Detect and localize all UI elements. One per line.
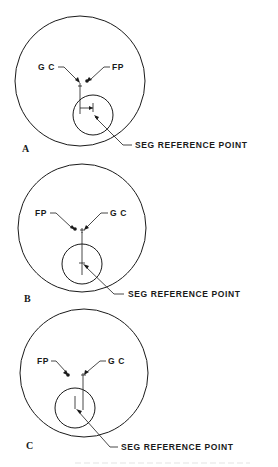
fp-label-b: FP (35, 208, 47, 218)
offset-arrow-a (89, 106, 93, 110)
seg-label-a: SEG REFERENCE POINT (135, 140, 248, 150)
seg-arrowhead-b (83, 264, 89, 269)
gc-leader-c (87, 361, 106, 372)
gc-label-c: G C (108, 356, 125, 366)
panel-a: G C FP SEG REFERENCE POINT A (15, 16, 248, 154)
seg-arrowhead-c (76, 409, 82, 414)
gc-label-a: G C (38, 62, 55, 72)
gc-leader-a (58, 67, 78, 81)
fp-arrowhead-c (63, 370, 69, 376)
seg-arrowhead-a (94, 115, 99, 120)
panel-c: FP G C SEG REFERENCE POINT C (20, 309, 234, 452)
gc-leader-b (87, 213, 108, 227)
fp-leader-b (50, 213, 71, 227)
panel-letter-c: C (26, 440, 33, 451)
panel-letter-b: B (24, 293, 31, 304)
seg-leader-a (95, 117, 132, 145)
fp-label-a: FP (112, 62, 124, 72)
outer-circle-a (15, 16, 145, 146)
fp-label-c: FP (37, 356, 49, 366)
seg-label-b: SEG REFERENCE POINT (128, 289, 241, 299)
seg-leader-b (85, 266, 124, 294)
gc-arrowhead-a (75, 77, 80, 83)
seg-leader-c (78, 411, 118, 447)
panel-b: FP G C SEG REFERENCE POINT B (18, 164, 241, 304)
figure-diagram: G C FP SEG REFERENCE POINT A FP G C (0, 0, 278, 467)
panel-letter-a: A (22, 143, 30, 154)
fp-leader-c (51, 361, 66, 372)
fp-leader-a (91, 67, 110, 79)
gc-cross-b (80, 228, 85, 233)
seg-label-c: SEG REFERENCE POINT (121, 442, 234, 452)
gc-label-b: G C (110, 208, 127, 218)
gc-cross-a (78, 83, 82, 89)
